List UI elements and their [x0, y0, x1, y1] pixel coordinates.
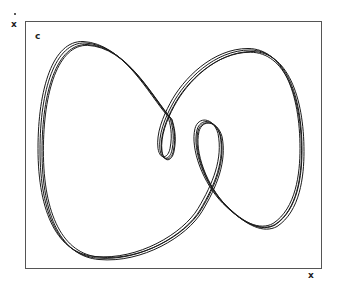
- trajectory-strands: [38, 41, 304, 259]
- attractor-plot: [0, 0, 342, 286]
